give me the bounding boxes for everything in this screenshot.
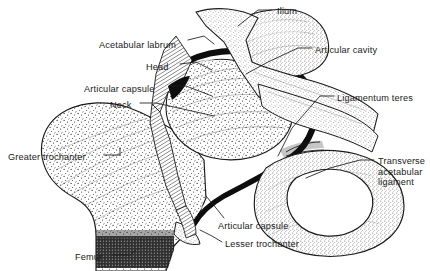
- obturator-foramen: [287, 169, 373, 236]
- label-ilium: Ilium: [277, 6, 297, 17]
- label-ligamentum-teres: Ligamentum teres: [337, 93, 413, 104]
- label-articular-cavity: Articular cavity: [315, 45, 377, 56]
- label-femur: Femur: [75, 252, 102, 263]
- label-lesser-trochanter: Lesser trochanter: [225, 239, 299, 250]
- label-articular-capsule-bottom: Articular capsule: [218, 221, 288, 232]
- label-neck: Neck: [110, 100, 132, 111]
- label-articular-capsule-top: Articular capsule: [84, 84, 154, 95]
- label-head: Head: [146, 62, 169, 73]
- label-transverse-acetabular-ligament: Transverse acetabular ligament: [378, 156, 425, 188]
- hip-joint-figure: Acetabular labrum Head Articular capsule…: [0, 0, 430, 271]
- label-greater-trochanter: Greater trochanter: [8, 152, 86, 163]
- hip-joint-illustration: [0, 0, 430, 271]
- label-acetabular-labrum: Acetabular labrum: [99, 40, 176, 51]
